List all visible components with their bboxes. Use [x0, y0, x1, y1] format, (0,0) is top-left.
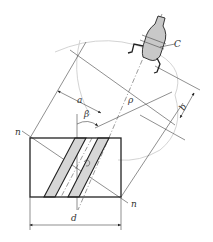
- projection-line-right: [121, 103, 183, 197]
- nozzle: [128, 16, 175, 73]
- label-n-top: n: [15, 127, 21, 137]
- label-nozzle-c: C: [174, 39, 181, 49]
- label-beta: β: [83, 109, 89, 119]
- spray-geometry-diagram: C a β ρ b n n d: [0, 0, 213, 242]
- label-rho: ρ: [127, 95, 134, 105]
- spray-arc-right: [118, 95, 178, 160]
- label-n-bottom: n: [131, 199, 137, 209]
- beta-arc: [77, 121, 98, 126]
- label-a: a: [77, 95, 82, 105]
- label-d: d: [71, 213, 77, 223]
- extension-line-b-lower: [140, 115, 185, 140]
- rho-line: [95, 92, 172, 128]
